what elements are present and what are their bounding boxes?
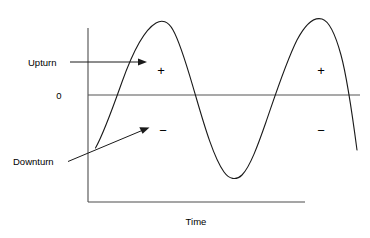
minus-sign-first-cycle: −: [159, 123, 167, 138]
cycle-curve: [96, 19, 358, 179]
business-cycle-diagram: Upturn Downturn 0 + − + − Time: [0, 0, 370, 238]
downturn-label: Downturn: [13, 156, 54, 167]
plus-sign-first-cycle: +: [157, 63, 165, 78]
upturn-label: Upturn: [28, 57, 57, 68]
zero-axis-label: 0: [56, 90, 61, 101]
x-axis-title: Time: [186, 216, 207, 227]
plus-sign-second-cycle: +: [317, 63, 325, 78]
upturn-arrow-head-icon: [138, 58, 147, 65]
downturn-arrow-line: [68, 131, 142, 162]
minus-sign-second-cycle: −: [317, 123, 325, 138]
figure-container: Upturn Downturn 0 + − + − Time: [0, 0, 370, 238]
